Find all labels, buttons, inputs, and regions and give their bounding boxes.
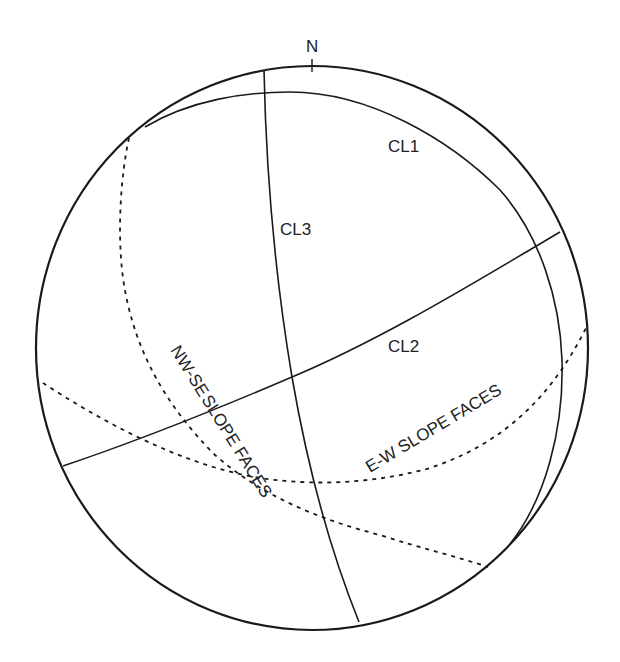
north-label: N [306, 37, 318, 56]
e-w-label: E-W SLOPE FACES [362, 380, 505, 476]
cl3-label: CL3 [280, 220, 311, 239]
primitive-circle [36, 66, 588, 630]
nw-se-label-part2: SLOPE FACES [198, 392, 276, 501]
stereonet-diagram: N CL1 CL3 CL2 NW-SESLOPE FACES E-W SLOPE… [0, 0, 620, 662]
great-circle-cl3 [264, 70, 359, 622]
cl2-label: CL2 [388, 337, 419, 356]
nw-se-label-part1: NW-SE [167, 342, 213, 400]
cl1-label: CL1 [388, 137, 419, 156]
great-circle-cl1 [145, 92, 562, 544]
great-circle-cl2 [63, 232, 560, 466]
great-circle-e-w-slope-faces [43, 328, 586, 483]
